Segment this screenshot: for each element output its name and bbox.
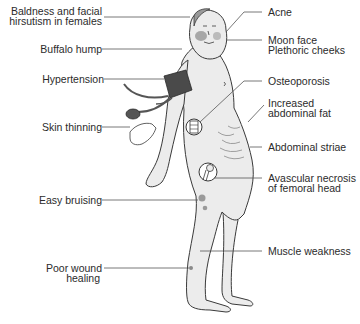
plethoric-cheek xyxy=(195,31,207,41)
label-buffalo-hump: Buffalo hump xyxy=(40,44,102,54)
wound xyxy=(189,266,193,270)
cushing-syndrome-diagram: Baldness and facial hirsutism in females… xyxy=(0,0,360,324)
label-abdominal-fat: Increased abdominal fat xyxy=(268,98,331,118)
label-easy-bruising: Easy bruising xyxy=(39,195,102,205)
label-skin-thinning: Skin thinning xyxy=(42,122,102,132)
body xyxy=(146,10,253,312)
label-poor-wound-healing: Poor wound healing xyxy=(46,263,102,283)
bruise xyxy=(203,206,208,211)
label-abdominal-striae: Abdominal striae xyxy=(268,142,346,152)
pinching-hand xyxy=(130,123,156,144)
label-baldness: Baldness and facial hirsutism in females xyxy=(9,6,102,26)
label-avascular-necrosis: Avascular necrosis of femoral head xyxy=(268,173,356,193)
label-osteoporosis: Osteoporosis xyxy=(268,76,330,86)
pressure-bulb xyxy=(126,109,140,119)
label-muscle-weakness: Muscle weakness xyxy=(268,246,351,256)
label-acne: Acne xyxy=(268,7,292,17)
label-hypertension: Hypertension xyxy=(42,74,104,84)
plethoric-cheek xyxy=(213,32,221,40)
bruise xyxy=(199,195,206,202)
label-moon-face: Moon face Plethoric cheeks xyxy=(268,35,345,55)
